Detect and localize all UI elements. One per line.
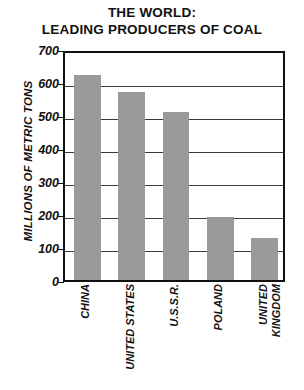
- x-tick-label-line: U.S.S.R.: [168, 284, 181, 388]
- bars-layer: [65, 53, 283, 280]
- x-tick-label: UNITED STATES: [124, 284, 137, 388]
- x-tick-label-line: POLAND: [212, 284, 225, 388]
- bar: [207, 217, 234, 280]
- bar: [251, 238, 278, 280]
- y-tick-label: 300: [0, 176, 59, 190]
- x-tick-label: U.S.S.R.: [168, 284, 181, 388]
- x-tick-label: UNITEDKINGDOM: [257, 284, 282, 388]
- bar: [118, 92, 145, 280]
- x-tick-label-line: UNITED STATES: [124, 284, 137, 388]
- y-tick-mark: [58, 282, 64, 283]
- y-tick-label: 500: [0, 110, 59, 124]
- bar: [163, 112, 190, 280]
- x-tick-label-line: CHINA: [79, 284, 92, 388]
- chart-title: THE WORLD: LEADING PRODUCERS OF COAL: [0, 4, 304, 38]
- plot-area: [63, 51, 285, 282]
- y-tick-label: 700: [0, 44, 59, 58]
- chart-title-line-2: LEADING PRODUCERS OF COAL: [0, 21, 304, 38]
- y-tick-label: 100: [0, 242, 59, 256]
- y-tick-label: 400: [0, 143, 59, 157]
- x-axis-labels: CHINAUNITED STATESU.S.S.R.POLANDUNITEDKI…: [63, 284, 285, 388]
- y-tick-label: 0: [0, 275, 59, 289]
- chart-title-line-1: THE WORLD:: [0, 4, 304, 21]
- bar: [74, 75, 101, 280]
- x-tick-label-line: KINGDOM: [269, 284, 282, 388]
- x-tick-label-line: UNITED: [257, 284, 270, 388]
- y-tick-label: 600: [0, 77, 59, 91]
- x-tick-label: CHINA: [79, 284, 92, 388]
- x-tick-label: POLAND: [212, 284, 225, 388]
- y-tick-label: 200: [0, 209, 59, 223]
